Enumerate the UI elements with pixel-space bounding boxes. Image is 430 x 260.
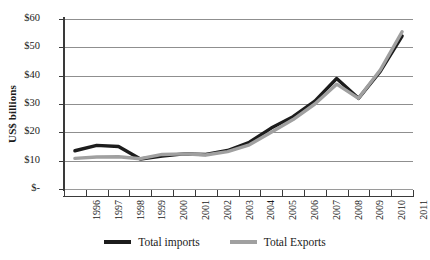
- x-tick-mark: [151, 190, 152, 197]
- x-tick-mark: [217, 190, 218, 197]
- x-tick-label: 1998: [136, 200, 146, 234]
- legend-item[interactable]: Total Exports: [230, 236, 326, 248]
- x-tick-mark: [413, 190, 414, 197]
- x-tick-label: 2002: [223, 200, 233, 234]
- x-tick-mark: [173, 190, 174, 197]
- x-tick-label: 1999: [157, 200, 167, 234]
- legend-swatch-icon: [104, 240, 131, 244]
- line-chart-figure: US$ billions $-$10$20$30$40$50$60 199619…: [0, 0, 430, 260]
- chart-legend: Total importsTotal Exports: [0, 236, 430, 248]
- plot-area: $-$10$20$30$40$50$60: [64, 19, 413, 189]
- x-tick-label: 2010: [397, 200, 407, 234]
- x-tick-label: 2000: [179, 200, 189, 234]
- x-tick-label: 1996: [92, 200, 102, 234]
- x-tick-mark: [64, 190, 65, 197]
- series-group: [64, 19, 413, 189]
- x-tick-label: 2003: [245, 200, 255, 234]
- x-tick-label: 2011: [419, 200, 429, 234]
- x-tick-mark: [239, 190, 240, 197]
- x-tick-mark: [108, 190, 109, 197]
- x-tick-mark: [326, 190, 327, 197]
- x-tick-label: 2006: [310, 200, 320, 234]
- y-tick-label: $60: [0, 13, 40, 23]
- y-tick-label: $20: [0, 126, 40, 136]
- x-tick-label: 2007: [332, 200, 342, 234]
- x-tick-label: 2009: [375, 200, 385, 234]
- y-tick-label: $50: [0, 41, 40, 51]
- x-tick-mark: [260, 190, 261, 197]
- x-tick-mark: [129, 190, 130, 197]
- series-line: [75, 32, 402, 159]
- x-tick-label: 1997: [114, 200, 124, 234]
- x-tick-mark: [304, 190, 305, 197]
- series-line: [75, 36, 402, 159]
- y-tick-label: $40: [0, 70, 40, 80]
- x-tick-label: 2004: [266, 200, 276, 234]
- x-tick-mark: [86, 190, 87, 197]
- x-tick-mark: [195, 190, 196, 197]
- legend-label: Total imports: [138, 236, 199, 248]
- legend-swatch-icon: [230, 240, 257, 244]
- legend-label: Total Exports: [264, 236, 326, 248]
- x-tick-label: 2005: [288, 200, 298, 234]
- y-tick-label: $30: [0, 98, 40, 108]
- legend-item[interactable]: Total imports: [104, 236, 199, 248]
- x-tick-mark: [391, 190, 392, 197]
- x-tick-mark: [369, 190, 370, 197]
- x-tick-mark: [282, 190, 283, 197]
- x-tick-label: 2001: [201, 200, 211, 234]
- y-tick-label: $-: [0, 183, 40, 193]
- x-tick-label: 2008: [354, 200, 364, 234]
- y-tick-label: $10: [0, 155, 40, 165]
- x-tick-mark: [348, 190, 349, 197]
